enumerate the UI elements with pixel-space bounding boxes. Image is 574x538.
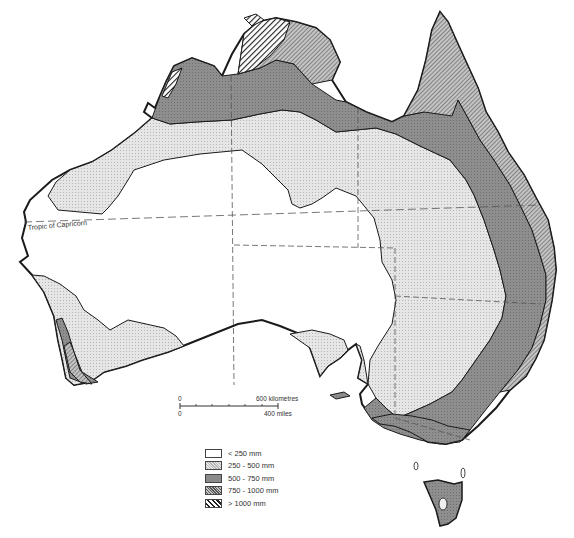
legend-swatch-750-1000 — [205, 486, 222, 495]
legend-swatch-250-500 — [205, 461, 222, 470]
legend-item: > 1000 mm — [205, 497, 278, 509]
legend-label: 250 - 500 mm — [228, 461, 274, 470]
scale-zero-bottom: 0 — [178, 410, 182, 417]
legend-swatch-500-750 — [205, 474, 222, 483]
legend-item: 500 - 750 mm — [205, 472, 278, 484]
scale-bar: 0 0 600 kilometres 400 miles — [178, 395, 299, 417]
legend: < 250 mm 250 - 500 mm 500 - 750 mm 750 -… — [205, 447, 278, 510]
legend-item: 250 - 500 mm — [205, 460, 278, 472]
island-king — [414, 462, 418, 470]
island-flinders — [461, 468, 465, 478]
legend-item: 750 - 1000 mm — [205, 485, 278, 497]
scale-zero-top: 0 — [178, 395, 182, 402]
legend-item: < 250 mm — [205, 447, 278, 459]
scale-km-label: 600 kilometres — [256, 395, 299, 402]
tasmania-light-zone — [439, 498, 447, 510]
australia-rainfall-map: Tropic of Capricorn 0 0 600 kilometres 4… — [0, 0, 574, 538]
legend-swatch-gt1000 — [205, 499, 222, 508]
legend-label: 750 - 1000 mm — [228, 486, 278, 495]
legend-swatch-lt250 — [205, 449, 222, 458]
scale-miles-label: 400 miles — [264, 410, 293, 417]
island-kangaroo — [330, 392, 350, 399]
legend-label: < 250 mm — [228, 449, 262, 458]
legend-label: > 1000 mm — [228, 499, 266, 508]
legend-label: 500 - 750 mm — [228, 474, 274, 483]
